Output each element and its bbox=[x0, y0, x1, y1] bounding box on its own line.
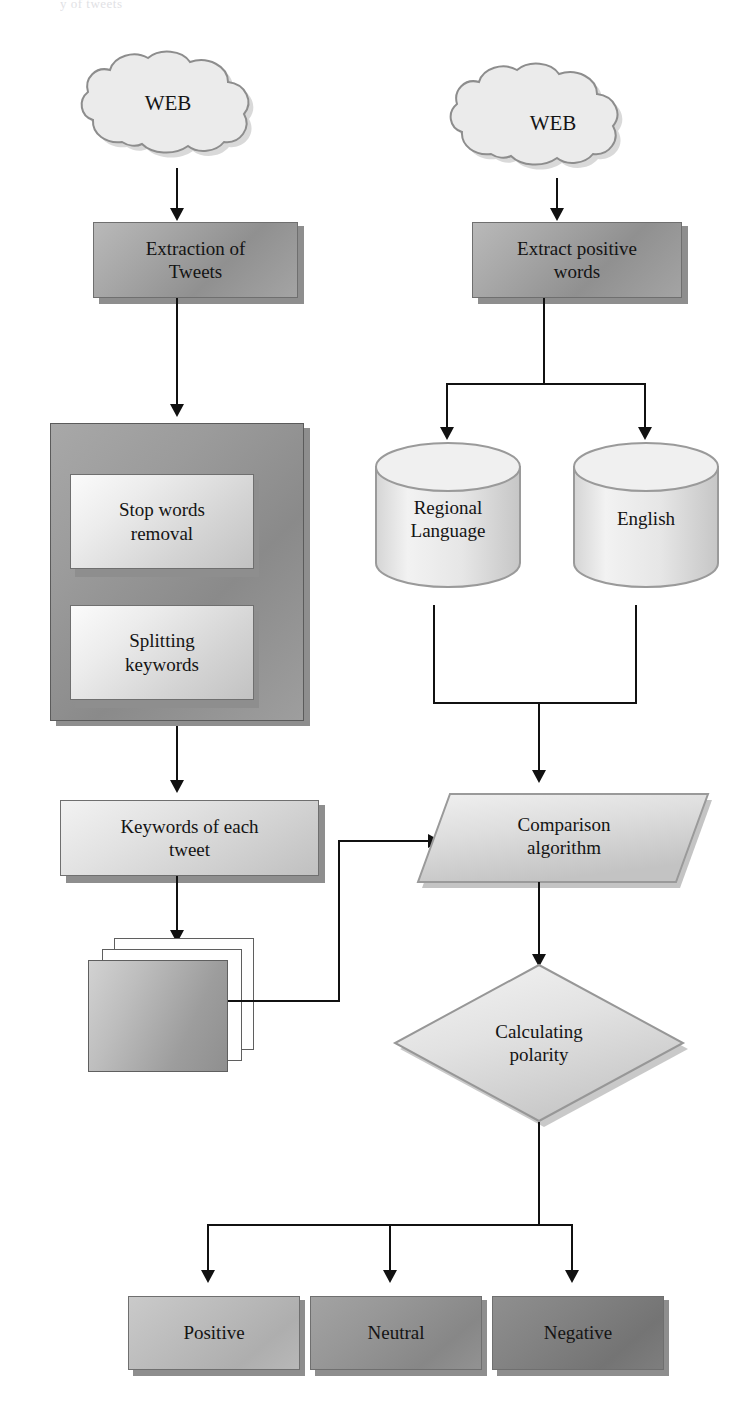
positive-box[interactable]: Positive bbox=[128, 1296, 300, 1370]
stop-words-removal-box[interactable]: Stop words removal bbox=[70, 474, 254, 569]
extract-positive-words-label: Extract positive words bbox=[473, 223, 681, 297]
negative-label: Negative bbox=[493, 1297, 663, 1369]
positive-label: Positive bbox=[129, 1297, 299, 1369]
connector-web-right-to-extract bbox=[556, 178, 558, 212]
cloud-web-right: WEB bbox=[447, 62, 637, 182]
connector-branch-to-negative bbox=[571, 1224, 573, 1272]
cropped-header-text: y of tweets bbox=[60, 0, 123, 12]
connector-documents-up bbox=[338, 840, 340, 1002]
english-db[interactable]: English bbox=[570, 441, 722, 593]
connector-polarity-stem-lower bbox=[538, 1182, 540, 1226]
arrowhead-to-neutral bbox=[383, 1270, 397, 1283]
arrowhead-to-english-db bbox=[638, 427, 652, 440]
connector-db-merge-stem bbox=[538, 702, 540, 774]
arrowhead-to-regional-db bbox=[440, 427, 454, 440]
negative-box[interactable]: Negative bbox=[492, 1296, 664, 1370]
connector-db-merge-bar bbox=[433, 702, 637, 704]
connector-panel-to-keywords bbox=[176, 726, 178, 784]
connector-extract-split-right bbox=[644, 383, 646, 429]
splitting-keywords-box[interactable]: Splitting keywords bbox=[70, 605, 254, 700]
connector-comparison-to-polarity bbox=[538, 882, 540, 958]
arrowhead-db-to-comparison bbox=[532, 770, 546, 783]
extraction-of-tweets-label: Extraction of Tweets bbox=[94, 223, 297, 297]
preprocessing-panel: Stop words removal Splitting keywords bbox=[50, 423, 304, 721]
connector-web-left-to-extraction bbox=[176, 168, 178, 212]
connector-extraction-to-panel bbox=[176, 298, 178, 406]
connector-polarity-stem bbox=[538, 1122, 540, 1184]
extraction-of-tweets-box[interactable]: Extraction of Tweets bbox=[93, 222, 298, 298]
connector-regional-db-down bbox=[433, 605, 435, 703]
arrowhead-web-right-to-extract bbox=[550, 208, 564, 221]
splitting-keywords-label: Splitting keywords bbox=[71, 606, 253, 699]
connector-extract-split-left bbox=[446, 383, 448, 429]
flowchart-canvas: y of tweets WEB WEB Extrac bbox=[0, 0, 748, 1421]
calculating-polarity-shape[interactable]: Calculating polarity bbox=[393, 963, 689, 1125]
arrowhead-web-left-to-extraction bbox=[170, 208, 184, 221]
keywords-of-each-tweet-box[interactable]: Keywords of each tweet bbox=[60, 800, 319, 876]
connector-extract-split-bar bbox=[446, 383, 646, 385]
connector-documents-out-bar bbox=[228, 1000, 340, 1002]
stop-words-removal-label: Stop words removal bbox=[71, 475, 253, 568]
connector-extract-split-stem bbox=[543, 298, 545, 384]
arrowhead-extraction-to-panel bbox=[170, 404, 184, 417]
cloud-web-left: WEB bbox=[78, 50, 268, 170]
comparison-algorithm-shape[interactable]: Comparison algorithm bbox=[418, 786, 706, 884]
arrowhead-panel-to-keywords bbox=[170, 780, 184, 793]
keywords-of-each-tweet-label: Keywords of each tweet bbox=[61, 801, 318, 875]
regional-language-db[interactable]: Regional Language bbox=[372, 441, 524, 593]
arrowhead-to-negative bbox=[565, 1270, 579, 1283]
tweet-document-sheet-front bbox=[88, 960, 228, 1072]
extract-positive-words-box[interactable]: Extract positive words bbox=[472, 222, 682, 298]
tweet-documents-stack[interactable] bbox=[88, 938, 278, 1078]
connector-branch-to-neutral bbox=[389, 1224, 391, 1272]
neutral-box[interactable]: Neutral bbox=[310, 1296, 482, 1370]
connector-english-db-down bbox=[635, 605, 637, 703]
connector-branch-to-positive bbox=[207, 1224, 209, 1272]
arrowhead-to-positive bbox=[201, 1270, 215, 1283]
neutral-label: Neutral bbox=[311, 1297, 481, 1369]
connector-keywords-to-documents bbox=[176, 876, 178, 934]
